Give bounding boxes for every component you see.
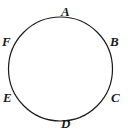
geometry-figure: A B C D E F	[0, 0, 128, 137]
point-label-b: B	[110, 35, 119, 48]
point-label-f: F	[2, 35, 11, 48]
point-label-d: D	[61, 117, 70, 130]
point-label-a: A	[61, 5, 70, 18]
point-label-c: C	[111, 91, 120, 104]
circle-shape	[9, 17, 113, 121]
point-label-e: E	[3, 91, 12, 104]
